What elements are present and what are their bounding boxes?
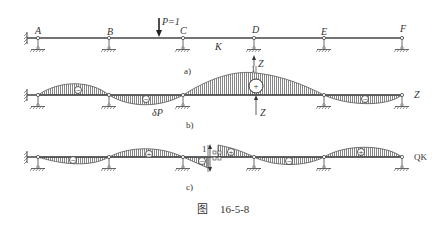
sign-circle: − bbox=[199, 156, 206, 166]
sign-circle: − bbox=[70, 155, 77, 165]
panel-b-sublabel: b) bbox=[186, 120, 194, 130]
fixed-support-icon bbox=[24, 89, 27, 102]
unit-label: 1 bbox=[251, 64, 256, 74]
sign-circle: + bbox=[358, 147, 365, 157]
label-c: C bbox=[180, 25, 187, 36]
region-kd-right bbox=[218, 145, 254, 157]
panel-c-sublabel: c) bbox=[186, 182, 193, 192]
unit-label: 1 bbox=[202, 144, 207, 154]
reaction-arrow-icon bbox=[254, 95, 258, 115]
influence-line-figure: A B C D E F P=1 K Z a) bbox=[0, 0, 438, 228]
end-qk-label: QK bbox=[414, 152, 427, 162]
sign-circle: + bbox=[228, 147, 235, 157]
panel-c-influence-line: 1 − + − + − + bbox=[24, 144, 427, 192]
svg-text:+: + bbox=[146, 149, 151, 159]
end-z-label: Z bbox=[414, 89, 420, 100]
label-a: A bbox=[34, 25, 42, 36]
label-f: F bbox=[399, 23, 407, 34]
unit-arrow-icon bbox=[208, 144, 212, 172]
fixed-support-icon bbox=[24, 32, 27, 45]
reaction-z-label: Z bbox=[260, 107, 266, 118]
svg-text:−: − bbox=[286, 156, 291, 166]
sign-circle: + bbox=[146, 149, 153, 159]
reaction-z-label: Z bbox=[258, 58, 264, 69]
sign-circle: − bbox=[143, 94, 150, 104]
support-d-icon bbox=[246, 36, 261, 52]
support-a-icon bbox=[30, 36, 45, 52]
label-d: D bbox=[251, 24, 260, 35]
support-e-icon bbox=[316, 36, 331, 52]
support-icon bbox=[30, 93, 45, 109]
support-icon bbox=[394, 155, 409, 171]
panel-a-structure: A B C D E F P=1 K Z a) bbox=[24, 16, 409, 76]
svg-text:−: − bbox=[143, 94, 148, 104]
load-label: P=1 bbox=[161, 16, 180, 27]
svg-text:+: + bbox=[228, 147, 233, 157]
svg-text:−: − bbox=[362, 94, 367, 104]
svg-text:+: + bbox=[358, 147, 363, 157]
panel-a-sublabel: a) bbox=[184, 66, 191, 76]
sign-circle: − bbox=[75, 85, 82, 95]
section-k-label: K bbox=[214, 41, 223, 52]
sign-circle: + bbox=[249, 79, 263, 93]
region-ab bbox=[38, 84, 109, 95]
panel-b-influence-line: − − + − 1 Z δP Z b) bbox=[24, 64, 420, 130]
deflection-label: δP bbox=[152, 107, 163, 118]
support-b-icon bbox=[101, 36, 116, 52]
label-b: B bbox=[107, 26, 113, 37]
caption-prefix: 图 bbox=[197, 203, 208, 215]
support-c-icon bbox=[175, 36, 190, 52]
sign-circle: − bbox=[286, 156, 293, 166]
caption-number: 16-5-8 bbox=[220, 203, 250, 215]
svg-text:+: + bbox=[253, 81, 258, 91]
svg-text:−: − bbox=[70, 155, 75, 165]
svg-text:−: − bbox=[75, 85, 80, 95]
fixed-support-icon bbox=[24, 151, 27, 164]
support-f-icon bbox=[394, 36, 409, 52]
sign-circle: − bbox=[362, 94, 369, 104]
svg-text:−: − bbox=[199, 156, 204, 166]
figure-caption: 图 16-5-8 bbox=[197, 203, 250, 215]
label-e: E bbox=[320, 26, 327, 37]
